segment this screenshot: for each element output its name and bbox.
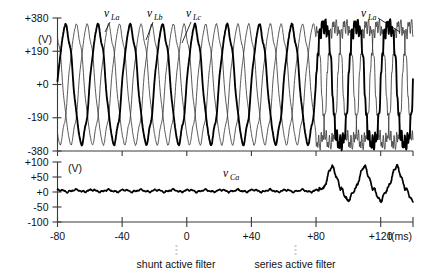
bottom-y-tick-labels: +100+50+0-50-100 xyxy=(25,156,49,228)
top-x-ticks xyxy=(58,151,414,156)
callout-v-lb-sub: Lb xyxy=(153,13,162,22)
x-tick-label: +40 xyxy=(243,230,261,242)
x-axis-label: t(ms) xyxy=(388,230,412,242)
top-y-label: -190 xyxy=(27,111,48,123)
bottom-y-label: +50 xyxy=(31,171,49,183)
callout-v-la-left: v La xyxy=(104,7,119,32)
callout-v-ca: v Ca xyxy=(223,167,239,182)
waveform-figure: +380+190+0-190-380 (V) v La v Lb v Lc xyxy=(0,0,433,277)
bottom-unit-label: (V) xyxy=(68,162,82,174)
callout-v-lc-sub: Lc xyxy=(192,13,201,22)
trace-v-ca xyxy=(58,165,414,203)
series-active-filter-label: series active filter xyxy=(254,258,336,270)
shunt-active-filter-label: shunt active filter xyxy=(137,258,216,270)
x-tick-label: -40 xyxy=(115,230,130,242)
event-marker-shunt xyxy=(176,245,178,255)
callout-v-ca-sub: Ca xyxy=(230,173,239,182)
event-marker-series xyxy=(295,245,297,255)
callout-v-lb-base: v xyxy=(147,7,153,19)
callout-v-la-left-base: v xyxy=(104,7,110,19)
top-panel: +380+190+0-190-380 (V) v La v Lb v Lc xyxy=(25,7,413,157)
bottom-y-label: +0 xyxy=(37,186,49,198)
callout-v-lb-leader xyxy=(146,22,153,40)
callout-v-la-left-leader xyxy=(105,22,110,32)
callout-v-la-left-sub: La xyxy=(110,13,119,22)
callout-v-la-right-base: v xyxy=(361,7,367,19)
top-unit-label: (V) xyxy=(38,33,52,45)
callout-v-ca-base: v xyxy=(223,167,229,179)
bottom-y-label: -100 xyxy=(27,216,48,228)
top-y-label: +0 xyxy=(37,78,49,90)
bottom-panel: +100+50+0-50-100 (V) v Ca -80-400+40+80+… xyxy=(25,156,413,242)
callout-v-la-right-sub: La xyxy=(367,13,376,22)
bottom-y-label: -50 xyxy=(33,201,48,213)
x-tick-label: 0 xyxy=(184,230,190,242)
x-tick-label: -80 xyxy=(50,230,65,242)
figure-canvas: +380+190+0-190-380 (V) v La v Lb v Lc xyxy=(0,0,433,277)
x-tick-labels: -80-400+40+80+120 xyxy=(50,230,393,242)
event-annotations: shunt active filter series active filter xyxy=(137,245,336,270)
callout-v-lc-base: v xyxy=(186,7,192,19)
top-y-label: +190 xyxy=(25,45,49,57)
top-y-label: +380 xyxy=(25,12,49,24)
bottom-panel-axes xyxy=(53,162,414,227)
top-traces xyxy=(58,19,413,150)
bottom-y-label: +100 xyxy=(25,156,49,168)
x-tick-label: +80 xyxy=(307,230,325,242)
